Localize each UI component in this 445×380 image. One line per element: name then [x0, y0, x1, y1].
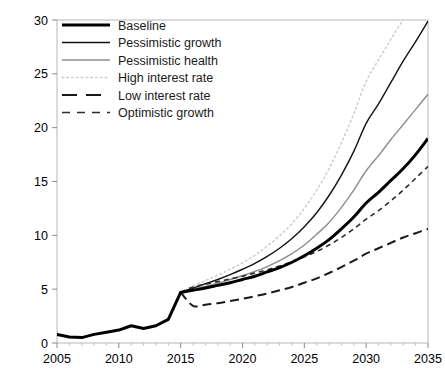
- legend-label-low-interest-rate: Low interest rate: [118, 89, 210, 103]
- y-tick-label: 15: [34, 175, 48, 189]
- y-tick-label: 25: [34, 67, 48, 81]
- x-tick-label: 2025: [290, 352, 318, 366]
- chart-background: [0, 0, 445, 380]
- y-tick-label: 30: [34, 14, 48, 28]
- x-tick-label: 2010: [105, 352, 133, 366]
- y-tick-label: 20: [34, 121, 48, 135]
- x-tick-label: 2015: [167, 352, 195, 366]
- x-tick-label: 2020: [229, 352, 257, 366]
- y-tick-label: 10: [34, 229, 48, 243]
- legend-label-baseline: Baseline: [118, 19, 166, 33]
- line-chart: 051015202530 200520102015202020252030203…: [0, 0, 445, 380]
- legend-label-pessimistic-health: Pessimistic health: [118, 54, 218, 68]
- y-tick-label: 0: [41, 337, 48, 351]
- x-tick-label: 2030: [352, 352, 380, 366]
- legend-label-optimistic-growth: Optimistic growth: [118, 106, 214, 120]
- legend-label-pessimistic-growth: Pessimistic growth: [118, 36, 222, 50]
- x-tick-label: 2005: [43, 352, 71, 366]
- chart-canvas: 051015202530 200520102015202020252030203…: [0, 0, 445, 380]
- y-tick-label: 5: [41, 283, 48, 297]
- x-tick-label: 2035: [414, 352, 442, 366]
- legend-label-high-interest-rate: High interest rate: [118, 71, 213, 85]
